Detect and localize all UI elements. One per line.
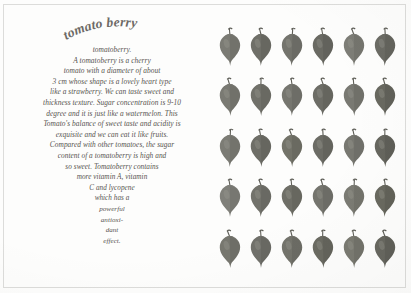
article-line: so sweet. Tomatoberry contains xyxy=(14,162,210,173)
tomatoberry-fruit-icon xyxy=(276,177,307,220)
tomato-grid-cell xyxy=(245,26,276,76)
article-line: which has a xyxy=(14,193,210,204)
tomatoberry-fruit-icon xyxy=(245,76,275,118)
tomato-grid-cell xyxy=(369,76,400,126)
tomato-grid-cell xyxy=(214,228,245,278)
tomatoberry-fruit-icon xyxy=(307,227,338,270)
article-line: degree and it is just like a watermelon.… xyxy=(14,109,210,120)
tomatoberry-fruit-icon xyxy=(214,26,244,68)
article-line: effect. xyxy=(14,236,210,247)
tomatoberry-fruit-icon xyxy=(245,26,275,68)
tomato-grid-cell xyxy=(307,228,338,278)
tomato-grid-cell xyxy=(369,26,400,76)
tomato-grid-cell xyxy=(214,76,245,126)
tomatoberry-fruit-icon xyxy=(276,76,306,118)
tomatoberry-fruit-icon xyxy=(369,127,400,170)
tomato-grid-cell xyxy=(338,76,369,126)
tomatoberry-fruit-icon xyxy=(369,227,399,269)
tomatoberry-fruit-icon xyxy=(338,177,368,219)
tomato-grid-cell xyxy=(307,127,338,177)
tomatoberry-fruit-icon xyxy=(214,127,245,170)
article-line: C and lycopene xyxy=(14,183,210,194)
article-line: antioxi- xyxy=(14,215,210,226)
article-line: tomatoberry. xyxy=(14,45,210,56)
tomatoberry-fruit-icon xyxy=(307,127,337,169)
tomato-grid-cell xyxy=(245,76,276,126)
tomato-grid-cell xyxy=(276,127,307,177)
tomato-grid-cell xyxy=(214,127,245,177)
tomatoberry-fruit-icon xyxy=(369,177,400,220)
tomato-grid-cell xyxy=(369,177,400,227)
article-line: exquisite and we can eat it like fruits. xyxy=(14,130,210,141)
logo-text: tomato berry xyxy=(60,14,139,42)
tomatoberry-fruit-icon xyxy=(370,76,400,118)
tomatoberry-fruit-icon xyxy=(307,76,338,119)
tomato-grid-cell xyxy=(307,76,338,126)
tomatoberry-fruit-icon xyxy=(338,76,369,119)
tomato-grid-cell xyxy=(214,177,245,227)
tomatoberry-fruit-icon xyxy=(338,227,368,269)
article-line: thickness texture. Sugar concentration i… xyxy=(14,98,210,109)
tomato-grid-cell xyxy=(276,177,307,227)
tomato-grid-cell xyxy=(338,228,369,278)
tomato-grid-cell xyxy=(245,177,276,227)
tomatoberry-fruit-icon xyxy=(338,126,369,169)
scanned-page: tomato berry tomatoberry.A tomatoberry i… xyxy=(0,0,411,293)
article-line: more vitamin A, vitamin xyxy=(14,172,210,183)
article-line: dant xyxy=(14,225,210,236)
tomatoberry-fruit-icon xyxy=(307,26,338,69)
article-line: 3 cm whose shape is a lovely heart type xyxy=(14,77,210,88)
tomato-grid-cell xyxy=(276,76,307,126)
article-line: Compared with other tomatoes, the sugar xyxy=(14,140,210,151)
tomato-grid-cell xyxy=(338,26,369,76)
tomatoberry-fruit-icon xyxy=(214,76,245,119)
tomatoberry-fruit-icon xyxy=(214,227,245,270)
tomatoberry-logo: tomato berry xyxy=(14,14,210,44)
text-column: tomato berry tomatoberry.A tomatoberry i… xyxy=(14,14,210,279)
tomatoberry-fruit-icon xyxy=(246,228,276,270)
tomato-grid-cell xyxy=(369,228,400,278)
tomato-grid-cell xyxy=(245,127,276,177)
article-line: A tomatoberry is a cherry xyxy=(14,56,210,67)
tomatoberry-fruit-icon xyxy=(276,227,307,270)
tomato-grid-cell xyxy=(276,26,307,76)
article-line: Tomato's balance of sweet taste and acid… xyxy=(14,119,210,130)
article-line: powerful xyxy=(14,204,210,215)
tomato-grid-cell xyxy=(338,127,369,177)
article-line: like a strawberry. We can taste sweet an… xyxy=(14,87,210,98)
tomatoberry-fruit-icon xyxy=(276,127,306,169)
tomato-grid-cell xyxy=(307,177,338,227)
tomato-photo-grid xyxy=(214,26,400,278)
article-line: content of a tomatoberry is high and xyxy=(14,151,210,162)
tomato-grid-cell xyxy=(307,26,338,76)
article-body: tomatoberry.A tomatoberry is a cherrytom… xyxy=(14,45,210,246)
tomatoberry-fruit-icon xyxy=(245,126,276,169)
tomatoberry-fruit-icon xyxy=(215,177,245,219)
tomatoberry-fruit-icon xyxy=(245,177,276,220)
tomatoberry-fruit-icon xyxy=(369,26,400,69)
tomato-grid-cell xyxy=(369,127,400,177)
tomatoberry-fruit-icon xyxy=(276,26,307,69)
tomatoberry-fruit-icon xyxy=(307,177,337,219)
tomato-grid-cell xyxy=(245,228,276,278)
tomato-grid-cell xyxy=(276,228,307,278)
tomatoberry-fruit-icon xyxy=(339,26,369,68)
article-line: tomato with a diameter of about xyxy=(14,66,210,77)
tomato-grid-cell xyxy=(214,26,245,76)
tomato-grid-cell xyxy=(338,177,369,227)
